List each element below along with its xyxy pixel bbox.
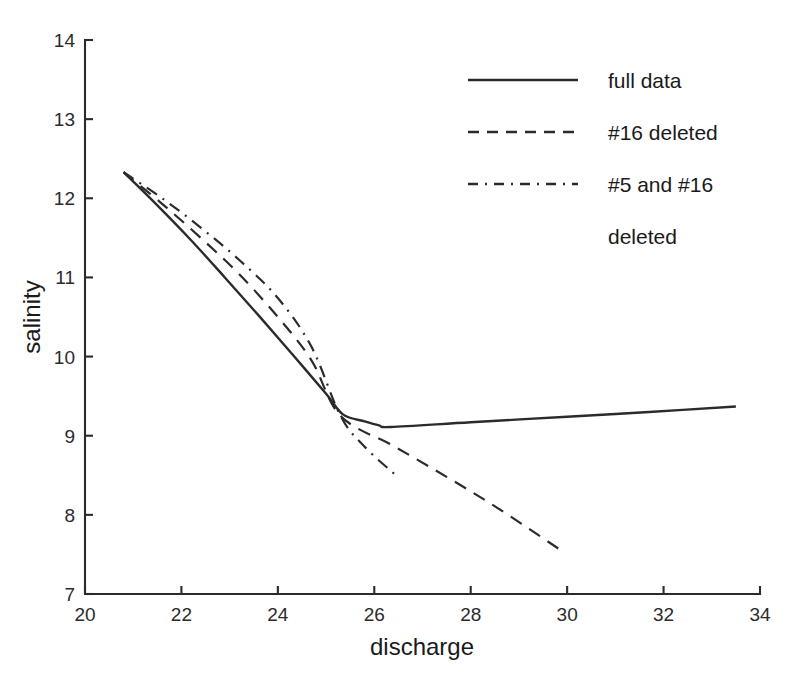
x-tick-label: 24 bbox=[267, 604, 289, 625]
legend-label: #16 deleted bbox=[608, 121, 718, 144]
legend-label: #5 and #16 bbox=[608, 173, 713, 196]
x-tick-label: 28 bbox=[460, 604, 481, 625]
y-tick-label: 12 bbox=[54, 188, 75, 209]
x-axis-label: discharge bbox=[370, 633, 474, 660]
y-tick-label: 10 bbox=[54, 347, 75, 368]
y-tick-label: 7 bbox=[64, 584, 75, 605]
legend-label: deleted bbox=[608, 225, 677, 248]
y-tick-label: 13 bbox=[54, 109, 75, 130]
x-tick-label: 26 bbox=[364, 604, 385, 625]
y-axis-label: salinity bbox=[18, 280, 45, 353]
x-tick-label: 34 bbox=[749, 604, 771, 625]
y-tick-label: 11 bbox=[55, 267, 75, 288]
y-tick-label: 14 bbox=[54, 30, 76, 51]
chart-background bbox=[0, 0, 802, 673]
chart-figure: 2022242628303234 7891011121314 discharge… bbox=[0, 0, 802, 673]
salinity-vs-discharge-chart: 2022242628303234 7891011121314 discharge… bbox=[0, 0, 802, 673]
x-tick-label: 20 bbox=[74, 604, 95, 625]
x-tick-label: 32 bbox=[653, 604, 674, 625]
y-tick-label: 9 bbox=[64, 426, 75, 447]
legend-label: full data bbox=[608, 69, 682, 92]
x-tick-label: 22 bbox=[171, 604, 192, 625]
y-tick-label: 8 bbox=[64, 505, 75, 526]
x-tick-label: 30 bbox=[557, 604, 578, 625]
